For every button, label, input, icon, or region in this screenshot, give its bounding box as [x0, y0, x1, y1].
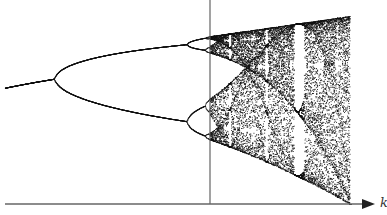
x-axis-label: k — [380, 195, 387, 210]
bifurcation-points — [5, 16, 351, 205]
bifurcation-diagram — [0, 0, 387, 215]
x-axis-arrow-icon — [362, 199, 375, 209]
